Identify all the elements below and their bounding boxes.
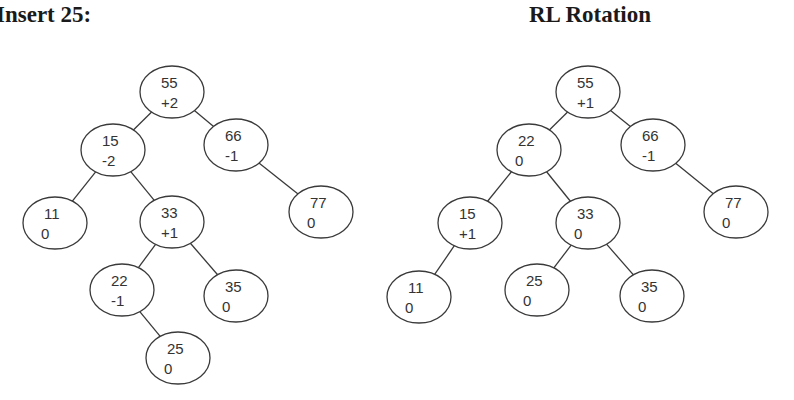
tree-node-77: 770: [704, 186, 768, 238]
node-balance-factor: 0: [222, 298, 230, 315]
tree-node-55: 55+1: [556, 66, 620, 118]
edge-15-33: [131, 172, 155, 201]
tree-node-66: 66-1: [621, 119, 685, 171]
node-balance-factor: 0: [405, 299, 413, 316]
node-key: 25: [167, 340, 184, 357]
node-balance-factor: -1: [111, 292, 124, 309]
tree-node-22: 220: [497, 124, 561, 176]
before-rotation-tree: 55+215-266-111033+177022-1350250: [23, 66, 353, 384]
node-key: 35: [641, 278, 658, 295]
node-balance-factor: 0: [164, 360, 172, 377]
node-key: 77: [725, 194, 742, 211]
node-balance-factor: 0: [638, 298, 646, 315]
node-key: 25: [526, 272, 543, 289]
tree-node-22: 22-1: [90, 264, 154, 316]
node-balance-factor: 0: [41, 225, 49, 242]
tree-nodes: 55+122066-115+1330770110250350: [387, 66, 768, 323]
edge-22-25: [140, 312, 160, 337]
node-key: 33: [577, 205, 594, 222]
edge-33-35: [190, 243, 217, 274]
node-balance-factor: +1: [161, 224, 178, 241]
edge-55-15: [133, 112, 151, 130]
node-balance-factor: 0: [515, 152, 523, 169]
node-key: 77: [310, 194, 327, 211]
node-balance-factor: 0: [574, 225, 582, 242]
node-key: 55: [577, 74, 594, 91]
edge-15-11: [72, 172, 95, 201]
tree-node-35: 350: [204, 270, 268, 322]
node-balance-factor: -2: [102, 152, 115, 169]
edge-33-35: [607, 244, 634, 275]
tree-node-35: 350: [620, 270, 684, 322]
node-key: 22: [111, 272, 128, 289]
edge-33-22: [138, 244, 155, 267]
edge-33-25: [554, 245, 571, 268]
tree-node-11: 110: [23, 197, 87, 249]
node-balance-factor: +2: [161, 94, 178, 111]
node-key: 66: [225, 127, 242, 144]
node-balance-factor: 0: [722, 214, 730, 231]
node-balance-factor: 0: [307, 214, 315, 231]
after-rotation-tree: 55+122066-115+1330770110250350: [387, 66, 768, 323]
node-balance-factor: 0: [523, 292, 531, 309]
node-balance-factor: +1: [577, 94, 594, 111]
tree-node-55: 55+2: [140, 66, 204, 118]
node-key: 35: [225, 278, 242, 295]
tree-node-66: 66-1: [204, 119, 268, 171]
tree-node-11: 110: [387, 271, 451, 323]
tree-nodes: 55+215-266-111033+177022-1350250: [23, 66, 353, 384]
node-balance-factor: -1: [225, 147, 238, 164]
node-key: 11: [44, 205, 60, 222]
tree-node-15: 15+1: [438, 197, 502, 249]
avl-tree-diagram: 55+215-266-111033+177022-1350250 55+1220…: [0, 0, 794, 400]
edge-66-77: [676, 163, 714, 193]
edge-66-77: [259, 163, 298, 194]
edge-55-66: [611, 110, 631, 126]
tree-node-25: 250: [146, 332, 210, 384]
edge-55-22: [549, 112, 567, 130]
tree-node-33: 33+1: [140, 196, 204, 248]
tree-node-25: 250: [505, 264, 569, 316]
node-key: 33: [161, 204, 178, 221]
node-key: 55: [161, 74, 178, 91]
tree-node-33: 330: [556, 197, 620, 249]
node-key: 15: [459, 205, 476, 222]
edge-22-15: [488, 172, 512, 202]
node-key: 15: [102, 132, 119, 149]
edge-15-11: [435, 246, 455, 275]
tree-node-15: 15-2: [81, 124, 145, 176]
tree-node-77: 770: [289, 186, 353, 238]
node-balance-factor: -1: [642, 147, 655, 164]
node-key: 66: [642, 127, 659, 144]
node-balance-factor: +1: [459, 225, 476, 242]
node-key: 22: [518, 132, 535, 149]
node-key: 11: [408, 279, 424, 296]
edge-55-66: [194, 111, 213, 127]
edge-22-33: [547, 172, 571, 202]
